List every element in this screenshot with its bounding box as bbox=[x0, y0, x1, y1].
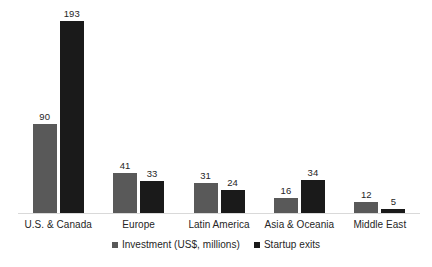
bar-value-label: 12 bbox=[361, 189, 372, 200]
bar[interactable] bbox=[194, 183, 218, 214]
bar-item: 24 bbox=[221, 8, 245, 214]
bar-value-label: 24 bbox=[227, 177, 238, 188]
bar[interactable] bbox=[113, 173, 137, 214]
category-label: U.S. & Canada bbox=[18, 216, 98, 234]
legend-item[interactable]: Investment (US$, millions) bbox=[112, 239, 240, 251]
bar-group: 4133 bbox=[98, 8, 178, 214]
bar-item: 33 bbox=[140, 8, 164, 214]
bar[interactable] bbox=[140, 181, 164, 214]
bar-item: 34 bbox=[301, 8, 325, 214]
bar-value-label: 90 bbox=[39, 111, 50, 122]
bar[interactable] bbox=[33, 124, 57, 214]
bar-groups: 90193413331241634125 bbox=[18, 8, 420, 214]
bar[interactable] bbox=[274, 198, 298, 214]
bar[interactable] bbox=[301, 180, 325, 214]
bar-value-label: 41 bbox=[120, 160, 131, 171]
bar-group: 125 bbox=[340, 8, 420, 214]
legend-label: Startup exits bbox=[264, 239, 320, 251]
bar[interactable] bbox=[221, 190, 245, 214]
category-label: Middle East bbox=[340, 216, 420, 234]
category-axis-labels: U.S. & CanadaEuropeLatin AmericaAsia & O… bbox=[18, 216, 420, 234]
chart-legend: Investment (US$, millions)Startup exits bbox=[0, 239, 432, 251]
bar-value-label: 193 bbox=[64, 8, 80, 19]
bar-value-label: 5 bbox=[391, 196, 396, 207]
bar-chart: 90193413331241634125 U.S. & CanadaEurope… bbox=[0, 0, 432, 267]
category-label: Asia & Oceania bbox=[259, 216, 339, 234]
legend-swatch-icon bbox=[254, 242, 260, 248]
plot-area: 90193413331241634125 bbox=[18, 8, 420, 214]
legend-label: Investment (US$, millions) bbox=[122, 239, 240, 251]
x-axis-line bbox=[18, 213, 420, 214]
legend-item[interactable]: Startup exits bbox=[254, 239, 320, 251]
bar-value-label: 33 bbox=[147, 168, 158, 179]
bar-group: 3124 bbox=[179, 8, 259, 214]
bar-group: 1634 bbox=[259, 8, 339, 214]
category-label: Europe bbox=[98, 216, 178, 234]
bar-value-label: 16 bbox=[281, 185, 292, 196]
category-label: Latin America bbox=[179, 216, 259, 234]
bar-item: 5 bbox=[381, 8, 405, 214]
bar-item: 31 bbox=[194, 8, 218, 214]
bar[interactable] bbox=[60, 21, 84, 214]
bar-item: 90 bbox=[33, 8, 57, 214]
bar-item: 16 bbox=[274, 8, 298, 214]
bar-item: 12 bbox=[354, 8, 378, 214]
bar-value-label: 34 bbox=[308, 167, 319, 178]
legend-swatch-icon bbox=[112, 242, 118, 248]
bar-group: 90193 bbox=[18, 8, 98, 214]
bar-item: 41 bbox=[113, 8, 137, 214]
bar-item: 193 bbox=[60, 8, 84, 214]
bar-value-label: 31 bbox=[200, 170, 211, 181]
